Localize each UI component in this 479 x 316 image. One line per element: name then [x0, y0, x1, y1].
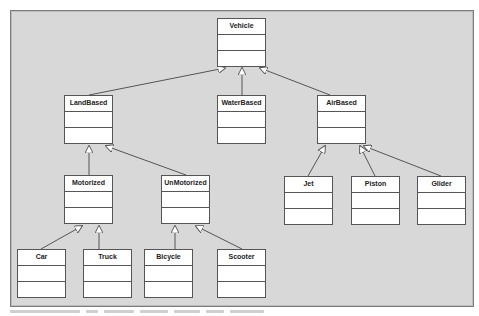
- class-attributes: [218, 35, 265, 51]
- class-operations: [218, 128, 265, 143]
- class-operations: [318, 128, 365, 143]
- class-name: WaterBased: [218, 96, 265, 112]
- class-operations: [218, 282, 265, 297]
- edge-unmotorized-landbased: [106, 146, 186, 175]
- class-name: UnMotorized: [162, 176, 209, 192]
- class-name: Motorized: [65, 176, 112, 192]
- class-attributes: [65, 112, 112, 128]
- class-motorized[interactable]: Motorized: [64, 175, 113, 224]
- class-attributes: [352, 193, 399, 209]
- edge-jet-airbased: [308, 146, 325, 176]
- class-car[interactable]: Car: [17, 249, 66, 298]
- class-landbased[interactable]: LandBased: [64, 95, 113, 144]
- class-name: Truck: [84, 250, 131, 266]
- class-attributes: [318, 112, 365, 128]
- class-attributes: [285, 193, 332, 209]
- class-waterbased[interactable]: WaterBased: [217, 95, 266, 144]
- class-operations: [18, 282, 65, 297]
- class-airbased[interactable]: AirBased: [317, 95, 366, 144]
- class-operations: [352, 209, 399, 224]
- class-glider[interactable]: Glider: [417, 176, 466, 225]
- illegible-caption: [10, 308, 264, 314]
- class-attributes: [218, 112, 265, 128]
- class-attributes: [145, 266, 192, 282]
- class-attributes: [84, 266, 131, 282]
- class-operations: [84, 282, 131, 297]
- class-attributes: [218, 266, 265, 282]
- class-operations: [145, 282, 192, 297]
- edge-car-motorized: [41, 226, 82, 249]
- edge-scooter-unmotorized: [196, 226, 242, 249]
- class-operations: [162, 208, 209, 223]
- edge-landbased-vehicle: [89, 68, 225, 95]
- class-name: Bicycle: [145, 250, 192, 266]
- class-name: AirBased: [318, 96, 365, 112]
- class-jet[interactable]: Jet: [284, 176, 333, 225]
- class-operations: [285, 209, 332, 224]
- class-name: Jet: [285, 177, 332, 193]
- edge-piston-airbased: [360, 146, 375, 176]
- class-operations: [218, 51, 265, 66]
- class-bicycle[interactable]: Bicycle: [144, 249, 193, 298]
- class-operations: [65, 128, 112, 143]
- class-attributes: [65, 192, 112, 208]
- class-name: Piston: [352, 177, 399, 193]
- class-piston[interactable]: Piston: [351, 176, 400, 225]
- class-name: Car: [18, 250, 65, 266]
- class-attributes: [18, 266, 65, 282]
- edge-airbased-vehicle: [260, 68, 330, 95]
- class-operations: [65, 208, 112, 223]
- class-name: LandBased: [65, 96, 112, 112]
- class-attributes: [418, 193, 465, 209]
- class-truck[interactable]: Truck: [83, 249, 132, 298]
- class-attributes: [162, 192, 209, 208]
- class-name: Scooter: [218, 250, 265, 266]
- class-name: Vehicle: [218, 19, 265, 35]
- class-vehicle[interactable]: Vehicle: [217, 18, 266, 67]
- class-scooter[interactable]: Scooter: [217, 249, 266, 298]
- class-operations: [418, 209, 465, 224]
- edge-glider-airbased: [364, 146, 441, 176]
- class-unmotorized[interactable]: UnMotorized: [161, 175, 210, 224]
- class-name: Glider: [418, 177, 465, 193]
